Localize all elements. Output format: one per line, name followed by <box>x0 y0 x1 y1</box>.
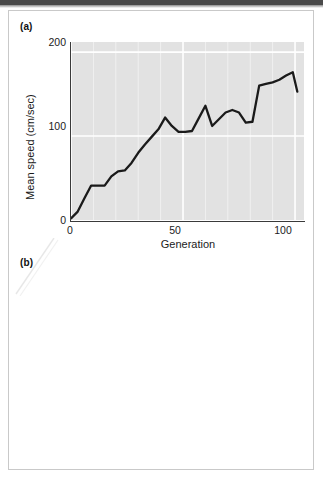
series-mean-speed <box>71 72 297 218</box>
panel-a-xtick-50: 50 <box>163 224 187 236</box>
panel-a-xtick-0: 0 <box>58 224 82 236</box>
figure-root: (a) 200 100 0 0 50 100 Generation Mean s… <box>0 0 323 480</box>
panel-a-x-axis <box>70 221 305 222</box>
panel-a-ytick-200: 200 <box>28 36 66 48</box>
panel-a-xtick-100: 100 <box>269 224 297 236</box>
panel-a-y-axis-title: Mean speed (cm/sec) <box>24 94 36 200</box>
panel-a-plot-area <box>71 42 304 220</box>
scan-top-band-fade <box>0 5 323 8</box>
panel-b: (b) 10,000 6,000 2,000 0 5 10 Generation… <box>0 243 323 480</box>
panel-b-tag: (b) <box>20 257 33 268</box>
panel-a-tag: (a) <box>20 21 33 32</box>
panel-a: (a) 200 100 0 0 50 100 Generation Mean s… <box>0 10 323 240</box>
panel-a-y-axis <box>70 42 71 221</box>
panel-a-chart-svg <box>71 42 304 220</box>
